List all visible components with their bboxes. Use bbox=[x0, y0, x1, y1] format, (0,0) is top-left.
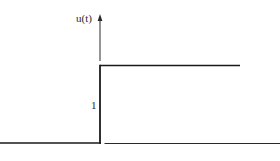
step-height-label: 1 bbox=[91, 100, 97, 111]
y-axis-label: u(t) bbox=[76, 13, 92, 24]
step-function-plot bbox=[0, 0, 280, 161]
y-axis-arrowhead-icon bbox=[98, 14, 103, 21]
